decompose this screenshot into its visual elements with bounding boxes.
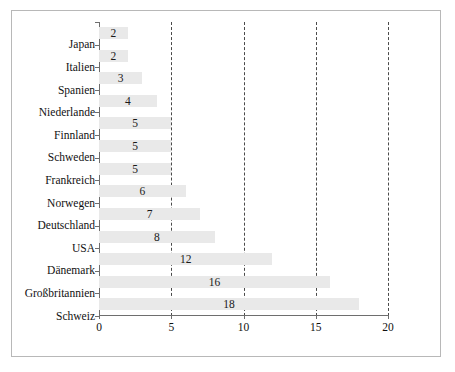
category-label-usa: USA (72, 240, 95, 256)
y-axis-category-labels: JapanItalienSpanienNiederlandeFinnlandSc… (12, 22, 95, 316)
x-tick-label-15: 15 (301, 321, 331, 333)
y-tick-0 (95, 22, 99, 23)
y-tick-12 (95, 293, 99, 294)
y-tick-4 (95, 112, 99, 113)
bar-row[interactable]: 5 (99, 112, 388, 135)
bar-value-label: 5 (99, 115, 171, 131)
y-tick-9 (95, 226, 99, 227)
bar-row[interactable]: 2 (99, 45, 388, 68)
y-tick-6 (95, 158, 99, 159)
category-label-schweden: Schweden (48, 149, 95, 165)
x-axis-tick-labels: 05101520 (99, 321, 389, 337)
category-label-italien: Italien (66, 59, 95, 75)
plot-area: 2234555678121618 (99, 22, 388, 316)
x-tick-label-20: 20 (373, 321, 403, 333)
category-label-großbritannien: Großbritannien (25, 285, 95, 301)
y-tick-5 (95, 135, 99, 136)
y-tick-8 (95, 203, 99, 204)
bar-row[interactable]: 4 (99, 90, 388, 113)
bar-value-label: 6 (99, 183, 186, 199)
y-tick-10 (95, 248, 99, 249)
category-label-finnland: Finnland (54, 127, 95, 143)
bar-value-label: 5 (99, 138, 171, 154)
category-label-deutschland: Deutschland (38, 217, 95, 233)
x-tick-0 (99, 315, 100, 319)
y-tick-7 (95, 180, 99, 181)
bar-row[interactable]: 18 (99, 293, 388, 316)
bar-value-label: 7 (99, 206, 200, 222)
bar-value-label: 12 (99, 251, 272, 267)
bar-value-label: 8 (99, 229, 215, 245)
gridline-20 (388, 22, 389, 316)
x-tick-20 (388, 315, 389, 319)
bar-row[interactable]: 12 (99, 248, 388, 271)
bar-value-label: 16 (99, 274, 330, 290)
x-tick-15 (316, 315, 317, 319)
bar-row[interactable]: 16 (99, 271, 388, 294)
y-tick-2 (95, 67, 99, 68)
category-label-dänemark: Dänemark (47, 262, 95, 278)
bar-value-label: 2 (99, 25, 128, 41)
bar-row[interactable]: 6 (99, 180, 388, 203)
y-tick-3 (95, 90, 99, 91)
category-label-norwegen: Norwegen (47, 195, 95, 211)
category-label-spanien: Spanien (58, 82, 95, 98)
bar-value-label: 4 (99, 93, 157, 109)
bar-value-label: 5 (99, 161, 171, 177)
bar-value-label: 18 (99, 296, 359, 312)
y-tick-13 (95, 316, 99, 317)
bar-value-label: 2 (99, 48, 128, 64)
x-tick-5 (171, 315, 172, 319)
chart-figure: JapanItalienSpanienNiederlandeFinnlandSc… (11, 10, 441, 357)
x-tick-label-10: 10 (229, 321, 259, 333)
bar-row[interactable]: 2 (99, 22, 388, 45)
x-tick-label-5: 5 (156, 321, 186, 333)
bar-row[interactable]: 3 (99, 67, 388, 90)
x-tick-10 (244, 315, 245, 319)
category-label-niederlande: Niederlande (39, 104, 95, 120)
bar-row[interactable]: 5 (99, 135, 388, 158)
bar-row[interactable]: 8 (99, 226, 388, 249)
y-tick-1 (95, 45, 99, 46)
y-tick-11 (95, 271, 99, 272)
bar-row[interactable]: 7 (99, 203, 388, 226)
category-label-japan: Japan (69, 36, 95, 52)
bar-row[interactable]: 5 (99, 158, 388, 181)
x-tick-label-0: 0 (84, 321, 114, 333)
category-label-frankreich: Frankreich (45, 172, 95, 188)
bar-value-label: 3 (99, 70, 142, 86)
